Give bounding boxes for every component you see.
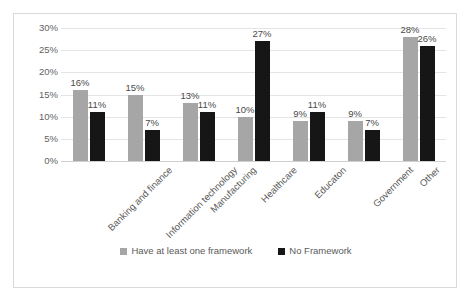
bar[interactable]: 11%: [310, 112, 325, 161]
bar[interactable]: 28%: [403, 37, 418, 161]
bar[interactable]: 11%: [90, 112, 105, 161]
y-axis-tick-label: 5%: [14, 134, 58, 144]
legend-label: Have at least one framework: [131, 246, 252, 256]
x-axis-category: Educaton: [281, 161, 336, 243]
bar-value-label: 11%: [88, 100, 106, 110]
bar-group: 9%11%: [281, 28, 336, 161]
bar[interactable]: 11%: [200, 112, 215, 161]
bar-group: 13%11%: [171, 28, 226, 161]
x-axis-category-labels: Banking and financeInformation technolog…: [61, 161, 446, 243]
legend-swatch-icon: [120, 248, 127, 255]
x-axis-category: Other: [391, 161, 446, 243]
chart-container: 30%25%20%15%10%5%0% 16%11%15%7%13%11%10%…: [13, 13, 457, 288]
legend-item[interactable]: Have at least one framework: [120, 246, 252, 256]
x-axis-category: Healthcare: [226, 161, 281, 243]
bar-value-label: 27%: [252, 29, 271, 39]
y-axis-tick-label: 30%: [14, 23, 58, 33]
legend-item[interactable]: No Framework: [278, 246, 351, 256]
plot-wrapper: 30%25%20%15%10%5%0% 16%11%15%7%13%11%10%…: [14, 14, 458, 174]
bar-groups: 16%11%15%7%13%11%10%27%9%11%9%7%28%26%: [61, 28, 446, 161]
bar[interactable]: 9%: [348, 121, 363, 161]
bar-value-label: 7%: [145, 118, 159, 128]
bar[interactable]: 15%: [128, 95, 143, 162]
y-axis-tick-label: 20%: [14, 68, 58, 78]
x-axis-category: Banking and finance: [61, 161, 116, 243]
bar-value-label: 7%: [365, 118, 379, 128]
bar-value-label: 16%: [70, 78, 89, 88]
bar[interactable]: 26%: [420, 46, 435, 161]
y-axis-tick-label: 0%: [14, 156, 58, 166]
bar-value-label: 26%: [417, 34, 436, 44]
bar-value-label: 13%: [180, 91, 199, 101]
x-axis-category: Government: [336, 161, 391, 243]
bar-group: 15%7%: [116, 28, 171, 161]
bar-value-label: 10%: [235, 105, 254, 115]
bar-value-label: 11%: [198, 100, 216, 110]
x-axis-category-label: Other: [417, 165, 441, 189]
y-axis-tick-label: 25%: [14, 45, 58, 55]
bar-value-label: 9%: [293, 109, 307, 119]
bar[interactable]: 9%: [293, 121, 308, 161]
bar-value-label: 11%: [308, 100, 326, 110]
bar-group: 28%26%: [391, 28, 446, 161]
bar-value-label: 9%: [348, 109, 362, 119]
bar-group: 16%11%: [61, 28, 116, 161]
y-axis: 30%25%20%15%10%5%0%: [14, 28, 58, 161]
bar[interactable]: 7%: [145, 130, 160, 161]
bar-group: 10%27%: [226, 28, 281, 161]
legend-swatch-icon: [278, 248, 285, 255]
bar[interactable]: 10%: [238, 117, 253, 161]
bar-value-label: 15%: [125, 83, 144, 93]
plot-area: 16%11%15%7%13%11%10%27%9%11%9%7%28%26%: [61, 28, 446, 161]
y-axis-tick-label: 15%: [14, 90, 58, 100]
bar-group: 9%7%: [336, 28, 391, 161]
bar[interactable]: 27%: [255, 41, 270, 161]
bar[interactable]: 16%: [73, 90, 88, 161]
chart-legend: Have at least one frameworkNo Framework: [14, 246, 458, 256]
legend-label: No Framework: [289, 246, 351, 256]
x-axis-category: Manufacturing: [171, 161, 226, 243]
x-axis-category: Information technology: [116, 161, 171, 243]
y-axis-tick-label: 10%: [14, 112, 58, 122]
bar[interactable]: 7%: [365, 130, 380, 161]
bar[interactable]: 13%: [183, 103, 198, 161]
